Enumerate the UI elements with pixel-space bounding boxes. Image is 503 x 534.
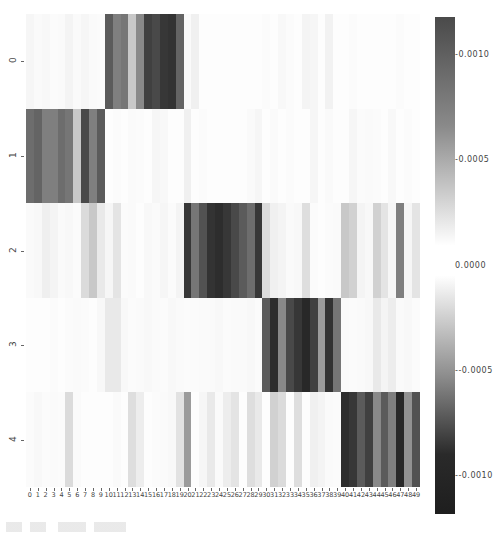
colorbar <box>435 17 455 514</box>
colorbar-tick-label: 0.0000 <box>455 261 486 270</box>
y-tick-mark <box>21 156 24 157</box>
y-tick-label: 0 <box>8 53 18 67</box>
heatmap-cell <box>412 14 420 109</box>
heatmap-grid <box>26 14 420 487</box>
heatmap-cell <box>412 203 420 298</box>
y-tick-label: 1 <box>8 148 18 162</box>
y-tick-mark <box>21 251 24 252</box>
colorbar-tick-label: -0.0010 <box>455 50 489 59</box>
colorbar-tick-label: -0.0005 <box>455 155 489 164</box>
heatmap-cell <box>412 392 420 487</box>
colorbar-tick-label: --0.0005 <box>455 366 493 375</box>
y-tick-mark <box>21 440 24 441</box>
y-tick-label: 2 <box>8 243 18 257</box>
y-tick-label: 4 <box>8 432 18 446</box>
y-tick-label: 3 <box>8 337 18 351</box>
y-tick-mark <box>21 61 24 62</box>
figure-caption-faint <box>6 522 206 532</box>
colorbar-tick-label: --0.0010 <box>455 471 493 480</box>
x-tick-label: 49 <box>410 491 422 499</box>
y-tick-mark <box>21 345 24 346</box>
heatmap-cell <box>412 109 420 204</box>
heatmap-cell <box>412 298 420 393</box>
